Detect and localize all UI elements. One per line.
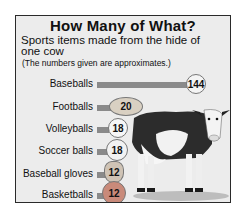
- baseball-glove-icon: 12: [104, 161, 124, 183]
- label-basketballs: Basketballs: [16, 189, 93, 200]
- infographic-frame: How Many of What? Sports items made from…: [15, 15, 231, 203]
- value-soccer-balls: 18: [111, 145, 122, 156]
- row-footballs: Footballs 20: [16, 99, 231, 115]
- bar-baseballs: [97, 82, 194, 88]
- row-basketballs: Basketballs 12: [16, 187, 231, 203]
- chart-title: How Many of What?: [16, 17, 230, 34]
- basketball-icon: 12: [102, 181, 126, 203]
- label-soccer-balls: Soccer balls: [16, 145, 93, 156]
- chart-subtitle: Sports items made from the hide of one c…: [21, 35, 201, 57]
- volleyball-icon: 18: [108, 118, 128, 138]
- label-baseball-gloves: Baseball gloves: [16, 168, 93, 179]
- row-baseball-gloves: Baseball gloves 12: [16, 166, 231, 182]
- label-footballs: Footballs: [16, 101, 93, 112]
- value-footballs: 20: [120, 101, 131, 112]
- chart-note: (The numbers given are approximates.): [22, 58, 171, 68]
- value-baseballs: 144: [188, 79, 205, 90]
- row-baseballs: Baseballs 144: [16, 76, 231, 92]
- value-volleyballs: 18: [112, 123, 123, 134]
- value-baseball-gloves: 12: [108, 167, 119, 178]
- label-baseballs: Baseballs: [16, 78, 93, 89]
- value-basketballs: 12: [108, 188, 119, 199]
- row-soccer-balls: Soccer balls 18: [16, 143, 231, 159]
- football-icon: 20: [109, 97, 143, 116]
- baseball-icon: 144: [186, 74, 206, 94]
- label-volleyballs: Volleyballs: [16, 123, 93, 134]
- soccer-ball-icon: 18: [106, 139, 128, 161]
- row-volleyballs: Volleyballs 18: [16, 121, 231, 137]
